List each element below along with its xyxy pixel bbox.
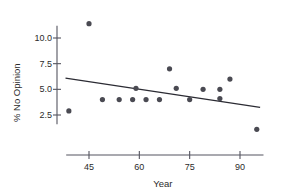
trend-line-segment bbox=[66, 78, 261, 107]
data-point bbox=[143, 97, 148, 102]
data-point bbox=[254, 127, 259, 132]
data-point bbox=[86, 21, 91, 26]
y-axis bbox=[53, 26, 61, 125]
x-axis bbox=[66, 151, 263, 159]
data-point bbox=[167, 66, 172, 71]
data-point bbox=[133, 86, 138, 91]
data-point bbox=[227, 76, 232, 81]
data-points bbox=[66, 21, 259, 132]
x-tick-label: 45 bbox=[84, 162, 94, 172]
data-point bbox=[217, 87, 222, 92]
y-axis-title: % No Opinion bbox=[11, 63, 22, 122]
scatter-plot-figure: 2.55.07.510.0 45607590 Year % No Opinion bbox=[0, 0, 294, 194]
y-tick-label: 10.0 bbox=[14, 33, 52, 43]
x-tick-label: 90 bbox=[235, 162, 245, 172]
data-point bbox=[174, 86, 179, 91]
trend-line bbox=[66, 78, 261, 107]
x-tick-label: 75 bbox=[185, 162, 195, 172]
data-point bbox=[130, 97, 135, 102]
data-point bbox=[117, 97, 122, 102]
data-point bbox=[187, 97, 192, 102]
x-tick-label: 60 bbox=[134, 162, 144, 172]
x-axis-title: Year bbox=[153, 178, 172, 189]
data-point bbox=[100, 97, 105, 102]
data-point bbox=[157, 97, 162, 102]
chart-canvas bbox=[0, 0, 294, 194]
data-point bbox=[217, 96, 222, 101]
data-point bbox=[66, 108, 71, 113]
data-point bbox=[200, 87, 205, 92]
